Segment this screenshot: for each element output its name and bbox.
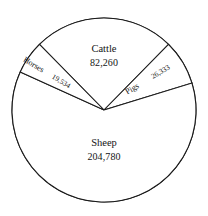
pie-chart-canvas: Cattle 82,260 Pigs 26,333 Sheep 204,780 … <box>0 0 208 216</box>
pie-chart-figure: Cattle 82,260 Pigs 26,333 Sheep 204,780 … <box>0 0 208 216</box>
slice-value-cattle: 82,260 <box>90 57 118 68</box>
slice-value-sheep: 204,780 <box>87 151 120 162</box>
slice-label-sheep: Sheep <box>91 137 117 148</box>
slice-label-cattle: Cattle <box>91 43 116 54</box>
